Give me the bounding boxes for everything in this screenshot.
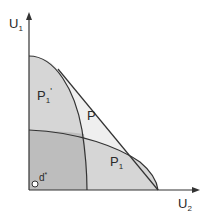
p1-prime-label: P1' xyxy=(37,86,52,105)
x-axis-label: U2 xyxy=(178,196,192,213)
region-overlap xyxy=(29,130,87,190)
x-axis-arrow-icon xyxy=(192,187,200,193)
disagreement-point xyxy=(32,181,38,187)
utility-possibility-diagram: U1 U2 P1' P P1 d* xyxy=(0,0,210,213)
y-axis-label: U1 xyxy=(9,16,23,33)
p-label: P xyxy=(87,108,96,123)
y-axis-arrow-icon xyxy=(26,12,32,20)
